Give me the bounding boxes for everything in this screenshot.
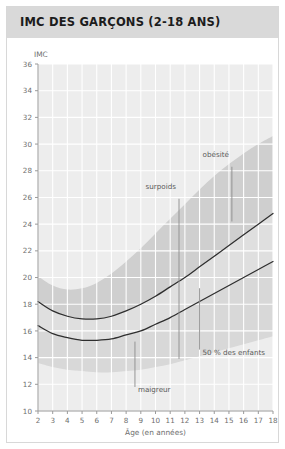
x-tick-label: 9 xyxy=(139,416,144,425)
x-tick-label: 14 xyxy=(210,416,220,425)
annotation-cinquante-pourcent: 50 % des enfants xyxy=(203,348,266,357)
x-tick-label: 5 xyxy=(80,416,85,425)
x-axis-caption: Âge (en années) xyxy=(125,428,186,437)
y-tick-label: 30 xyxy=(23,140,33,149)
y-tick-label: 12 xyxy=(23,380,32,389)
x-tick-label: 17 xyxy=(254,416,263,425)
x-tick-label: 6 xyxy=(94,416,99,425)
bmi-growth-chart: 1012141618202224262830323436234567891011… xyxy=(7,38,280,444)
x-tick-label: 2 xyxy=(36,416,41,425)
y-axis-ticks: 1012141618202224262830323436 xyxy=(23,60,38,416)
x-tick-label: 10 xyxy=(151,416,161,425)
x-tick-label: 15 xyxy=(224,416,233,425)
x-tick-label: 3 xyxy=(50,416,55,425)
y-tick-label: 36 xyxy=(23,60,33,69)
y-tick-label: 34 xyxy=(23,86,33,95)
y-tick-label: 14 xyxy=(23,353,33,362)
x-tick-label: 16 xyxy=(239,416,249,425)
card-header: IMC DES GARÇONS (2-18 ANS) xyxy=(7,7,278,38)
x-tick-label: 13 xyxy=(195,416,204,425)
x-tick-label: 11 xyxy=(166,416,175,425)
y-tick-label: 18 xyxy=(23,300,33,309)
chart-canvas: 1012141618202224262830323436234567891011… xyxy=(7,38,280,444)
annotation-obesite: obésité xyxy=(203,150,230,159)
x-tick-label: 18 xyxy=(268,416,278,425)
x-tick-label: 12 xyxy=(180,416,189,425)
x-tick-label: 8 xyxy=(124,416,129,425)
y-tick-label: 10 xyxy=(23,407,33,416)
x-axis-ticks: 23456789101112131415161718 xyxy=(36,411,278,425)
annotation-maigreur: maigreur xyxy=(138,385,171,394)
y-tick-label: 28 xyxy=(23,166,33,175)
y-tick-label: 16 xyxy=(23,327,33,336)
x-tick-label: 7 xyxy=(109,416,114,425)
y-tick-label: 22 xyxy=(23,246,32,255)
y-tick-label: 32 xyxy=(23,113,32,122)
page-title: IMC DES GARÇONS (2-18 ANS) xyxy=(20,15,220,29)
y-tick-label: 26 xyxy=(23,193,33,202)
x-tick-label: 4 xyxy=(65,416,70,425)
chart-card: IMC DES GARÇONS (2-18 ANS) 1012141618202… xyxy=(6,6,279,443)
annotation-surpoids: surpoids xyxy=(146,182,177,191)
y-tick-label: 24 xyxy=(23,220,33,229)
y-axis-caption: IMC xyxy=(34,50,48,59)
y-tick-label: 20 xyxy=(23,273,33,282)
